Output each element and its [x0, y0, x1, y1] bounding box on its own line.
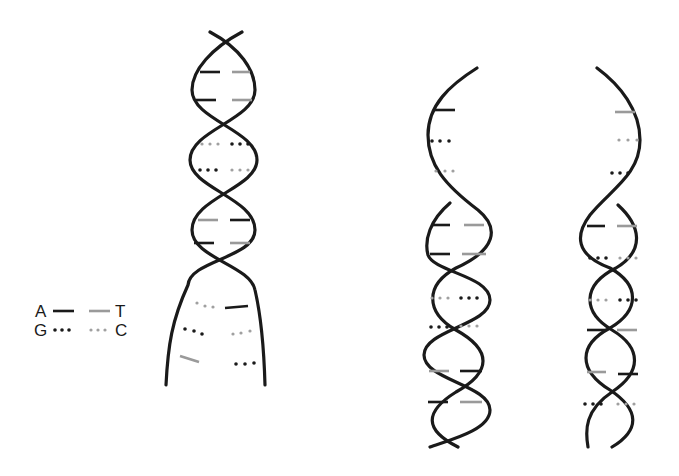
- legend-label-a: A: [35, 303, 46, 320]
- parent-helix: [166, 32, 265, 385]
- legend-label-g: G: [34, 322, 47, 339]
- daughter-helix-2: [580, 68, 640, 447]
- dna-replication-diagram: [0, 0, 679, 476]
- legend-label-t: T: [115, 303, 125, 320]
- legend: [53, 311, 110, 332]
- legend-label-c: C: [115, 322, 127, 339]
- daughter-helix-1: [424, 68, 491, 447]
